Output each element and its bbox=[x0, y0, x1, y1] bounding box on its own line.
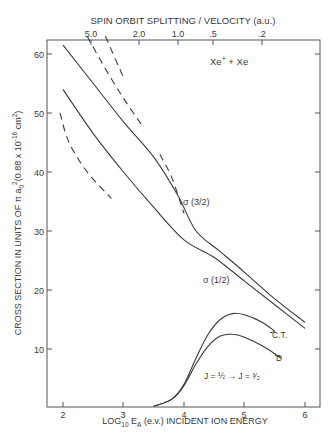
reaction-label: Xe+ + Xe bbox=[210, 55, 248, 67]
x-axis-title: LOG10 EA (e.v.) INCIDENT ION ENERGY bbox=[102, 416, 267, 428]
y-tick-label: 30 bbox=[34, 227, 44, 237]
top-tick-label: .5 bbox=[209, 29, 217, 39]
top-tick-label: 1.0 bbox=[172, 29, 185, 39]
y-tick-label: 60 bbox=[34, 50, 44, 60]
x-tick-label: 6 bbox=[302, 410, 307, 420]
chart: SPIN ORBIT SPLITTING / VELOCITY (a.u.) 5… bbox=[0, 0, 336, 442]
right-axis-ticks bbox=[315, 54, 320, 349]
series-dashed-2 bbox=[87, 36, 141, 125]
y-tick-label: 40 bbox=[34, 168, 44, 178]
transition-label: J = ½ → J = ³⁄₂ bbox=[204, 371, 260, 381]
top-axis-title: SPIN ORBIT SPLITTING / VELOCITY (a.u.) bbox=[91, 15, 276, 26]
sigma-3-2-label: σ (3/2) bbox=[183, 197, 210, 207]
series--3-2- bbox=[63, 45, 305, 322]
ct-label: C.T. bbox=[272, 330, 287, 340]
y-tick-label: 20 bbox=[34, 286, 44, 296]
d-label: D bbox=[276, 353, 282, 363]
y-tick-label: 50 bbox=[34, 109, 44, 119]
data-series bbox=[60, 36, 305, 406]
top-tick-label: 5.0 bbox=[85, 29, 98, 39]
y-axis-title: CROSS SECTION IN UNITS OF π a02(0.88 x 1… bbox=[11, 111, 25, 336]
top-axis-ticks: 5.02.01.0.5.2 bbox=[85, 29, 266, 45]
x-tick-label: 2 bbox=[60, 410, 65, 420]
series-dashed-3 bbox=[160, 154, 184, 213]
top-tick-label: 2.0 bbox=[133, 29, 146, 39]
y-axis-ticks: 605040302010 bbox=[34, 50, 52, 355]
series-dashed-4 bbox=[60, 113, 111, 199]
top-tick-label: .2 bbox=[258, 29, 266, 39]
series-dashed-1 bbox=[105, 36, 123, 77]
series-c-t- bbox=[154, 313, 275, 406]
y-tick-label: 10 bbox=[34, 345, 44, 355]
sigma-1-2-label: σ (1/2) bbox=[203, 275, 230, 285]
plot-frame bbox=[47, 40, 320, 407]
